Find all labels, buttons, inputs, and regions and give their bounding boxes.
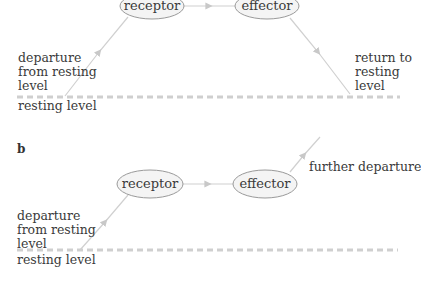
resting-level-label-a: resting level bbox=[18, 99, 97, 113]
return-line-a bbox=[290, 18, 350, 94]
effector-label-b: effector bbox=[239, 176, 291, 191]
effector-label-a: effector bbox=[241, 0, 293, 13]
departure-label-b-line1: departure bbox=[17, 209, 96, 223]
departure-label-b: departure from resting level bbox=[17, 209, 96, 251]
departure-label-b-line3: level bbox=[17, 237, 96, 251]
return-label-a-line3: level bbox=[355, 79, 412, 93]
return-label-a: return to resting level bbox=[355, 51, 412, 93]
receptor-label-a: receptor bbox=[124, 0, 181, 13]
return-label-a-line1: return to bbox=[355, 51, 412, 65]
panel-b-letter: b bbox=[17, 142, 25, 156]
departure-label-a: departure from resting level bbox=[18, 51, 97, 93]
further-departure-label-b: further departure bbox=[309, 160, 421, 174]
departure-label-a-line3: level bbox=[18, 79, 97, 93]
resting-level-label-b: resting level bbox=[17, 253, 96, 267]
departure-label-a-line2: from resting bbox=[18, 65, 97, 79]
receptor-label-b: receptor bbox=[122, 176, 179, 191]
return-label-a-line2: resting bbox=[355, 65, 412, 79]
departure-label-a-line1: departure bbox=[18, 51, 97, 65]
departure-label-b-line2: from resting bbox=[17, 223, 96, 237]
